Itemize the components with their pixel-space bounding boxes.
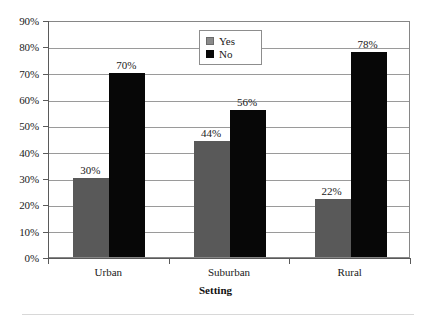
bar-value-label: 78%	[358, 39, 378, 50]
y-axis-line	[48, 21, 49, 259]
legend-swatch-no-icon	[206, 50, 214, 58]
x-axis-tick	[48, 259, 49, 264]
x-axis-tick	[169, 259, 170, 264]
y-axis-tick-label: 60%	[0, 95, 39, 106]
x-axis-label-suburban: Suburban	[208, 266, 250, 278]
bar-urban-no[interactable]	[109, 73, 145, 257]
y-axis-tick	[43, 232, 49, 233]
bottom-divider	[22, 314, 414, 315]
x-axis-label-rural: Rural	[337, 266, 361, 278]
bar-suburban-yes[interactable]	[194, 141, 230, 257]
legend-label-no: No	[219, 48, 232, 60]
x-axis-tick	[410, 259, 411, 264]
bar-suburban-no[interactable]	[230, 110, 266, 257]
y-axis-tick-label: 10%	[0, 227, 39, 238]
x-axis-label-urban: Urban	[95, 266, 123, 278]
x-axis-line	[48, 258, 411, 259]
y-axis-tick	[43, 74, 49, 75]
bar-value-label: 30%	[80, 165, 100, 176]
y-axis-tick	[43, 100, 49, 101]
y-axis-tick	[43, 205, 49, 206]
y-axis-tick	[43, 179, 49, 180]
y-axis-tick	[43, 153, 49, 154]
x-axis-title: Setting	[0, 284, 431, 296]
legend-item-yes[interactable]: Yes	[206, 34, 255, 47]
chart-legend: Yes No	[199, 30, 262, 65]
y-axis-tick-label: 70%	[0, 69, 39, 80]
y-axis-tick-label: 50%	[0, 121, 39, 132]
bar-rural-no[interactable]	[351, 52, 387, 257]
y-axis-tick-label: 80%	[0, 42, 39, 53]
y-axis-tick-label: 30%	[0, 174, 39, 185]
legend-item-no[interactable]: No	[206, 47, 255, 60]
x-axis-tick	[289, 259, 290, 264]
bar-value-label: 44%	[201, 128, 221, 139]
legend-label-yes: Yes	[219, 35, 235, 47]
bar-value-label: 70%	[116, 60, 136, 71]
legend-swatch-yes-icon	[206, 37, 214, 45]
y-axis-tick	[43, 126, 49, 127]
y-axis-tick	[43, 21, 49, 22]
bar-value-label: 22%	[322, 186, 342, 197]
y-axis-tick-label: 40%	[0, 148, 39, 159]
y-axis-tick-label: 90%	[0, 16, 39, 27]
bar-urban-yes[interactable]	[73, 178, 109, 257]
y-axis-tick	[43, 47, 49, 48]
y-axis-tick-label: 0%	[0, 253, 39, 264]
bar-rural-yes[interactable]	[315, 199, 351, 257]
bar-value-label: 56%	[237, 97, 257, 108]
y-axis-tick-label: 20%	[0, 200, 39, 211]
bar-chart: 90%80%70%60%50%40%30%20%10%0% UrbanSubur…	[0, 0, 431, 323]
